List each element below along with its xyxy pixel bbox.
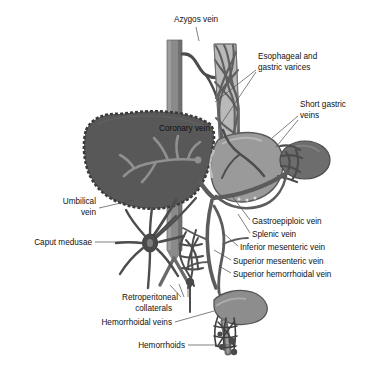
label-splenic-vein: Splenic vein xyxy=(252,230,297,239)
label-umbilical-vein-2: vein xyxy=(81,208,96,217)
diagram-canvas: Azygos veinEsophageal andgastric varices… xyxy=(0,0,369,371)
label-retroperitoneal-collaterals-2: collaterals xyxy=(135,304,172,313)
label-caput-medusae: Caput medusae xyxy=(34,238,92,247)
label-azygos-vein: Azygos vein xyxy=(174,15,219,24)
label-hemorrhoids: Hemorrhoids xyxy=(138,341,185,350)
label-coronary-vein: Coronary vein xyxy=(159,124,210,133)
label-gastroepiploic-vein: Gastroepiploic vein xyxy=(252,217,322,226)
label-umbilical-vein-1: Umbilical xyxy=(63,197,96,206)
portosystemic-collaterals-diagram: Azygos veinEsophageal andgastric varices… xyxy=(0,0,369,371)
label-esophageal-gastric-varices-1: Esophageal and xyxy=(258,52,318,61)
label-inferior-mesenteric-vein: Inferior mesenteric vein xyxy=(240,243,326,252)
label-short-gastric-veins-1: Short gastric xyxy=(300,100,346,109)
label-short-gastric-veins-2: veins xyxy=(300,111,319,120)
label-hemorrhoidal-veins: Hemorrhoidal veins xyxy=(101,318,172,327)
label-retroperitoneal-collaterals-1: Retroperitoneal xyxy=(122,293,178,302)
label-superior-hemorrhoidal-vein: Superior hemorrhoidal vein xyxy=(233,270,332,279)
label-superior-mesenteric-vein: Superior mesenteric vein xyxy=(233,257,324,266)
label-esophageal-gastric-varices-2: gastric varices xyxy=(258,63,310,72)
